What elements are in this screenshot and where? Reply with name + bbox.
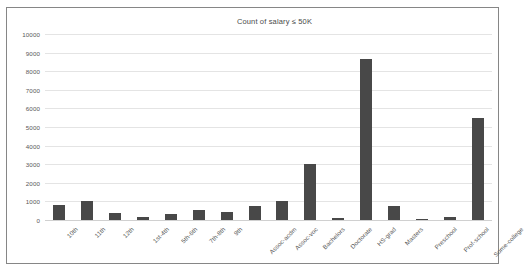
y-axis-tick-label: 1000	[26, 198, 40, 205]
bar-slot	[380, 34, 408, 220]
bar-slot	[241, 34, 269, 220]
chart-title: Count of salary ≤ 50K	[7, 17, 498, 26]
y-axis-tick-label: 8000	[26, 68, 40, 75]
x-axis-tick-text: HS-grad	[376, 225, 398, 247]
x-axis-tick-label: Masters	[405, 224, 426, 245]
x-axis-tick-label: Some-college	[493, 224, 526, 257]
x-axis-tick-text: 11th	[93, 225, 106, 238]
bar[interactable]	[165, 214, 177, 220]
y-axis-tick-label: 10000	[22, 31, 40, 38]
bar-slot	[213, 34, 241, 220]
bar[interactable]	[416, 219, 428, 220]
bar[interactable]	[53, 205, 65, 220]
bar[interactable]	[276, 201, 288, 220]
bar[interactable]	[444, 217, 456, 220]
bar-slot	[464, 34, 492, 220]
y-axis-tick-label: 6000	[26, 105, 40, 112]
x-axis-tick-text: Assoc-acdm	[267, 225, 297, 255]
x-axis-tick-text: Prof-school	[462, 225, 490, 253]
bar-slot	[101, 34, 129, 220]
bar-slot	[352, 34, 380, 220]
x-axis-tick-label: Bachelors	[323, 224, 348, 249]
y-axis-tick-label: 4000	[26, 142, 40, 149]
x-axis-tick-text: 7th-8th	[207, 225, 226, 244]
chart-title-text: Count of salary ≤ 50K	[193, 17, 312, 26]
bar[interactable]	[360, 59, 372, 220]
bar[interactable]	[472, 118, 484, 220]
x-axis-tick-text: 5th-6th	[179, 225, 198, 244]
bar-slot	[296, 34, 324, 220]
x-axis-tick-label: Prof-school	[464, 224, 492, 252]
x-axis-tick-label: 5th-6th	[181, 224, 200, 243]
y-axis-tick-label: 7000	[26, 86, 40, 93]
x-axis-tick-text: Some-college	[492, 225, 525, 258]
x-axis-tick-label: 10th	[67, 224, 81, 238]
y-axis: 1000090008000700060005000400030002000100…	[7, 34, 43, 220]
bar-slot	[45, 34, 73, 220]
x-axis-tick-text: Doctorate	[349, 225, 374, 250]
bar[interactable]	[109, 213, 121, 220]
bar[interactable]	[81, 201, 93, 220]
x-axis-tick-text: 9th	[232, 225, 243, 236]
plot-area	[45, 34, 492, 220]
x-axis-tick-label: Assoc-acdm	[269, 224, 299, 254]
y-axis-tick-label: 9000	[26, 49, 40, 56]
bar[interactable]	[332, 218, 344, 220]
y-axis-tick-label: 5000	[26, 124, 40, 131]
bar[interactable]	[221, 212, 233, 220]
x-axis-tick-label: HS-grad	[377, 224, 399, 246]
x-axis-tick-label: 1st-4th	[153, 224, 172, 243]
chart-container: Count of salary ≤ 50K 100009000800070006…	[6, 7, 499, 264]
bar-slot	[436, 34, 464, 220]
x-axis-tick-text: 1st-4th	[151, 225, 170, 244]
bar-slot	[73, 34, 101, 220]
x-axis-tick-label: Assoc-voc	[295, 224, 321, 250]
x-axis-tick-label: 12th	[122, 224, 136, 238]
y-axis-tick-label: 2000	[26, 179, 40, 186]
y-axis-tick-label: 3000	[26, 161, 40, 168]
bar[interactable]	[304, 164, 316, 220]
y-axis-tick-label: 0	[36, 217, 40, 224]
bar[interactable]	[388, 206, 400, 220]
x-axis-tick-label: 7th-8th	[209, 224, 228, 243]
bar-slot	[185, 34, 213, 220]
x-axis-tick-text: 10th	[65, 225, 79, 239]
x-axis-tick-text: Preschool	[433, 225, 458, 250]
x-axis: 10th11th12th1st-4th5th-6th7th-8th9thAsso…	[45, 222, 492, 266]
x-axis-tick-label: 11th	[94, 224, 107, 237]
x-axis-tick-label: Preschool	[434, 224, 459, 249]
x-axis-tick-label: Doctorate	[350, 224, 375, 249]
bar-slot	[129, 34, 157, 220]
bar-slot	[408, 34, 436, 220]
bar[interactable]	[193, 210, 205, 220]
x-axis-tick-text: 12th	[121, 225, 135, 239]
gridline	[45, 220, 492, 221]
x-axis-tick-text: Bachelors	[321, 225, 346, 250]
bar[interactable]	[137, 217, 149, 220]
bar-slot	[269, 34, 297, 220]
x-axis-tick-label: 9th	[233, 224, 244, 235]
x-axis-tick-text: Masters	[403, 225, 424, 246]
bar-slot	[324, 34, 352, 220]
bar-slot	[157, 34, 185, 220]
bar-series	[45, 34, 492, 220]
bar[interactable]	[249, 206, 261, 220]
